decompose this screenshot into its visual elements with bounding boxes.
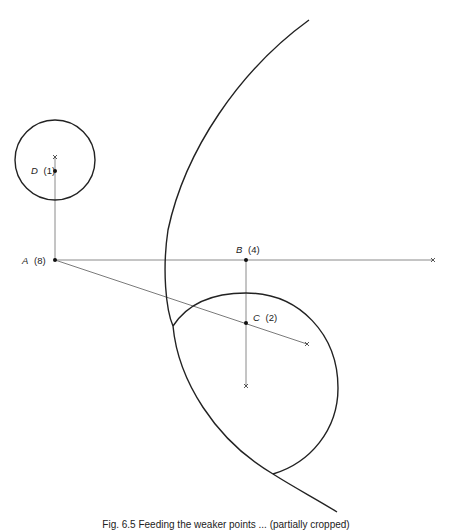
label-a: A (8): [21, 255, 46, 266]
label-b: B (4): [236, 244, 260, 255]
label-a-id: A: [21, 255, 28, 266]
large-boundary-arc: [165, 20, 337, 512]
point-a: [53, 258, 57, 262]
label-d: D (1): [31, 165, 55, 176]
point-c: [244, 321, 248, 325]
figure-caption: Fig. 6.5 Feeding the weaker points ... (…: [0, 519, 452, 530]
label-c-id: C: [253, 312, 260, 323]
label-d-id: D: [31, 165, 38, 176]
label-b-id: B: [236, 244, 243, 255]
line-a-to-c: [55, 260, 307, 344]
label-b-weight: (4): [248, 244, 260, 255]
point-b: [244, 258, 248, 262]
label-c-weight: (2): [266, 312, 278, 323]
label-a-weight: (8): [34, 255, 46, 266]
diagram-figure: A (8) B (4) C (2) D (1): [0, 0, 452, 531]
label-c: C (2): [253, 312, 277, 323]
label-d-weight: (1): [44, 165, 56, 176]
